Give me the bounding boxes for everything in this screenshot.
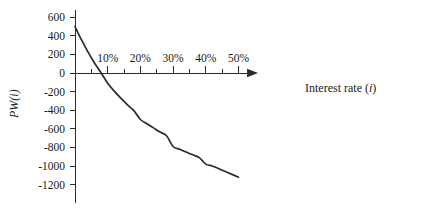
y-tick-label: 600 xyxy=(48,11,66,23)
y-tick-label: -1200 xyxy=(38,179,65,191)
y-tick-label: 400 xyxy=(48,30,66,42)
y-tick-label: 200 xyxy=(48,48,66,60)
svg-text:Interest rate (i): Interest rate (i) xyxy=(305,81,376,95)
present-worth-chart: 6004002000-200-400-600-800-1000-1200 10%… xyxy=(0,0,435,218)
y-tick-label: -600 xyxy=(44,123,65,135)
x-tick-label: 50% xyxy=(228,52,250,64)
x-axis-arrow-icon xyxy=(247,69,258,77)
chart-canvas: 6004002000-200-400-600-800-1000-1200 10%… xyxy=(0,0,435,218)
x-tick-label: 20% xyxy=(130,52,152,64)
y-tick-label: -800 xyxy=(44,141,65,153)
x-tick-label: 30% xyxy=(163,52,185,64)
x-tick-label: 40% xyxy=(195,52,217,64)
y-tick-label: -1000 xyxy=(38,160,65,172)
x-tick-label: 10% xyxy=(97,52,119,64)
x-axis-title: Interest rate (i) xyxy=(305,81,376,95)
y-axis-title: PW(i) xyxy=(7,89,21,119)
x-axis-tick-label-group: 10%20%30%40%50% xyxy=(97,52,249,64)
y-axis-tick-mark-group xyxy=(70,17,75,184)
y-tick-label: 0 xyxy=(59,67,65,79)
y-axis-tick-label-group: 6004002000-200-400-600-800-1000-1200 xyxy=(38,11,65,190)
svg-text:PW(i): PW(i) xyxy=(7,89,21,119)
pw-curve xyxy=(75,27,239,178)
y-tick-label: -400 xyxy=(44,104,65,116)
y-tick-label: -200 xyxy=(44,86,65,98)
